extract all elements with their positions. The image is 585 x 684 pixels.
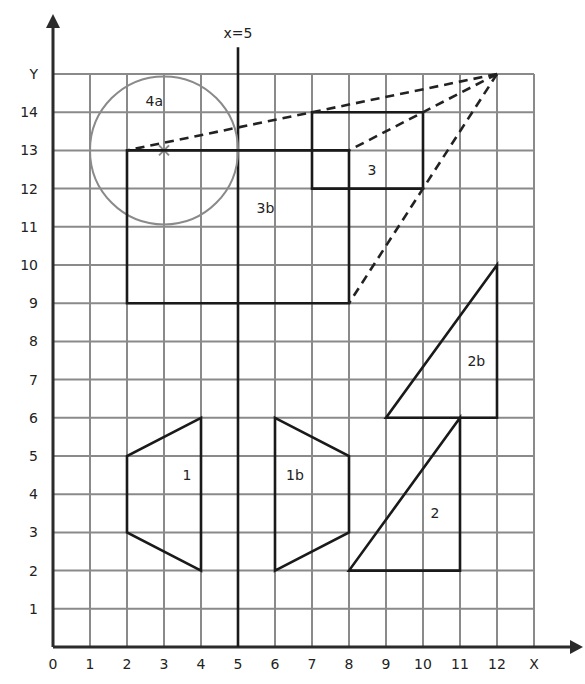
x-tick-label: 4	[197, 656, 206, 672]
x-tick-label: 2	[123, 656, 132, 672]
x-tick-label: 10	[414, 656, 432, 672]
y-axis-arrow-icon	[46, 14, 60, 28]
shape-labels: x=54a11b22b33b	[146, 25, 486, 521]
figures	[90, 47, 497, 647]
y-tick-label: 5	[29, 448, 38, 464]
x-tick-label: 5	[234, 656, 243, 672]
x-tick-label: 9	[382, 656, 391, 672]
mirror-line-label: x=5	[224, 25, 253, 41]
shape-label-3b: 3b	[257, 200, 275, 216]
y-tick-label: Y	[28, 66, 38, 82]
y-tick-label: 8	[29, 333, 38, 349]
y-tick-label: 2	[29, 563, 38, 579]
shape-label-2b: 2b	[467, 353, 485, 369]
y-tick-label: 14	[20, 104, 38, 120]
y-tick-label: 10	[20, 257, 38, 273]
x-tick-label: 3	[160, 656, 169, 672]
y-tick-label: 6	[29, 410, 38, 426]
x-tick-label: 1	[86, 656, 95, 672]
shape-label-2: 2	[430, 505, 439, 521]
x-tick-label: 8	[345, 656, 354, 672]
y-tick-label: 12	[20, 181, 38, 197]
y-tick-label: 1	[29, 601, 38, 617]
x-tick-label: X	[529, 656, 539, 672]
shape-label-3: 3	[368, 162, 377, 178]
x-tick-label: 0	[49, 656, 58, 672]
coordinate-grid-diagram: 0123456789101112X1234567891011121314Y x=…	[0, 0, 585, 684]
shape-label-1b: 1b	[286, 467, 304, 483]
x-tick-label: 11	[451, 656, 469, 672]
x-tick-label: 12	[488, 656, 506, 672]
x-axis-arrow-icon	[570, 640, 583, 654]
x-tick-label: 7	[308, 656, 317, 672]
y-tick-label: 9	[29, 295, 38, 311]
y-tick-label: 7	[29, 372, 38, 388]
x-tick-label: 6	[271, 656, 280, 672]
shape-label-4a: 4a	[146, 93, 164, 109]
tick-labels: 0123456789101112X1234567891011121314Y	[20, 66, 539, 672]
y-tick-label: 3	[29, 524, 38, 540]
y-tick-label: 4	[29, 486, 38, 502]
y-tick-label: 11	[20, 219, 38, 235]
shape-label-1: 1	[183, 467, 192, 483]
y-tick-label: 13	[20, 142, 38, 158]
